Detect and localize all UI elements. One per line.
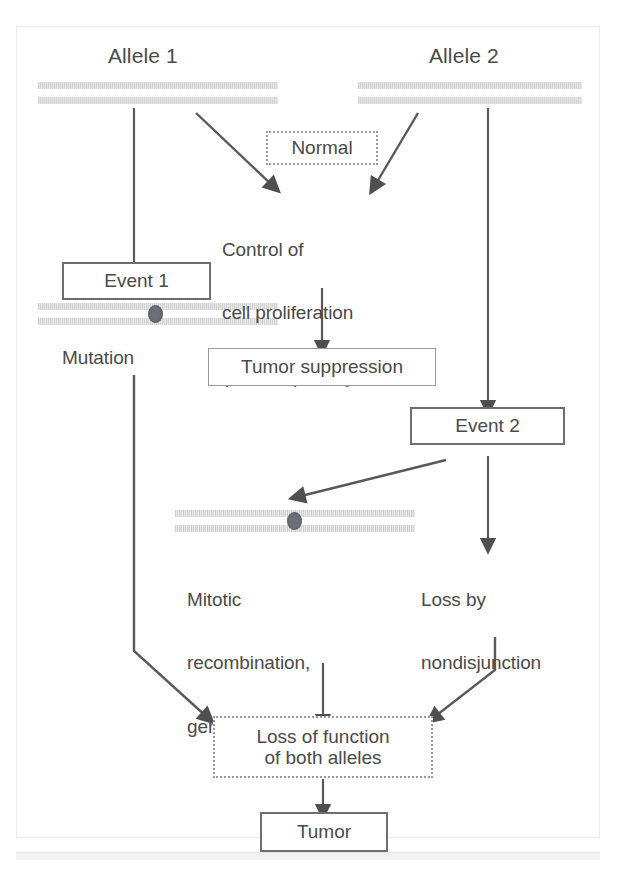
event-2-label: Event 2 [455,415,519,436]
control-line-1: Control of [222,239,353,260]
chromosome-allele-1 [38,82,278,104]
loss-of-function-line-2: of both alleles [264,747,381,768]
chromatid-strand-bottom [38,97,278,104]
tumor-box[interactable]: Tumor [260,812,388,852]
mitotic-line-2: recombination, [187,652,325,673]
allele-2-heading: Allele 2 [429,44,499,68]
chromatid-strand-top [358,82,582,89]
chromosome-allele-2 [358,82,582,104]
loss-of-function-box: Loss of function of both alleles [213,716,433,778]
chromosome-recombined-mutated [175,510,415,532]
mutation-marker-dot [287,512,302,530]
tumor-suppression-box[interactable]: Tumor suppression [208,348,436,386]
tumor-suppression-label: Tumor suppression [241,356,403,377]
event-1-box[interactable]: Event 1 [62,262,211,300]
figure-root: Allele 1 Allele 2 Control of cell prolif… [0,0,617,877]
event-2-box[interactable]: Event 2 [410,407,565,445]
loss-by-nondisjunction-label: Loss by nondisjunction [421,546,541,716]
loss-line-1: Loss by [421,589,541,610]
control-line-2: cell proliferation [222,302,353,323]
allele-1-heading: Allele 1 [108,44,178,68]
loss-line-2: nondisjunction [421,652,541,673]
mitotic-line-1: Mitotic [187,589,325,610]
mutation-marker-dot [148,305,163,323]
control-of-proliferation-label: Control of cell proliferation (tissue-sp… [222,196,353,430]
chromatid-strand-bottom [358,97,582,104]
mutation-label: Mutation [62,347,134,368]
chromatid-strand-top [38,82,278,89]
tumor-label: Tumor [297,821,351,842]
loss-of-function-line-1: Loss of function [256,726,389,747]
normal-state-box: Normal [266,131,378,165]
event-1-label: Event 1 [104,270,168,291]
normal-label: Normal [291,137,352,158]
figure-baseline-strip [16,852,600,860]
